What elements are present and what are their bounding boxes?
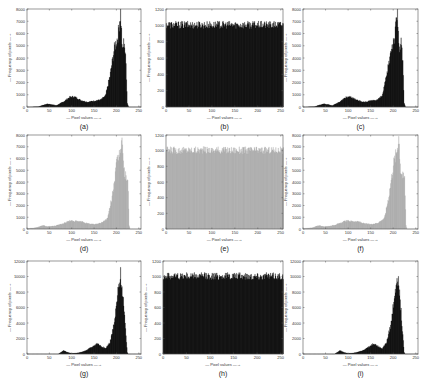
y-axis-label: — Frequency of pixels —→ [283,261,288,354]
x-tick-label: 150 [366,355,376,360]
y-tick-label: 6000 [287,305,301,310]
y-tick-label: 8000 [287,290,301,295]
x-tick-label: 250 [411,355,421,360]
x-tick-label: 50 [321,355,331,360]
x-tick-label: 200 [388,355,398,360]
y-tick-label: 12000 [287,259,301,264]
histogram-plot-i [0,0,428,382]
panel-caption: (i) [341,370,381,377]
x-axis-label: — Pixel values —→ [303,362,418,367]
y-tick-label: 0 [287,352,301,357]
y-tick-label: 4000 [287,321,301,326]
y-tick-label: 10000 [287,274,301,279]
x-tick-label: 100 [343,355,353,360]
y-tick-label: 2000 [287,336,301,341]
histogram-bars [303,276,418,354]
